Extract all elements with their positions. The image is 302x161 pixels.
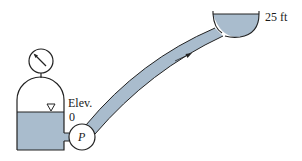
- pressurized-tank: [17, 77, 64, 150]
- tank-water: [17, 112, 64, 150]
- reservoir-elevation-label: 25 ft: [265, 11, 287, 23]
- discharge-pipe: [86, 28, 223, 134]
- pressure-gauge-icon: [29, 49, 53, 78]
- free-surface-triangle-icon: [47, 104, 55, 111]
- pump-system-diagram: [0, 0, 302, 161]
- pump-label: P: [78, 131, 85, 143]
- elevation-label: Elev.: [68, 97, 92, 109]
- suction-pipe: [64, 133, 69, 141]
- elevation-value: 0: [69, 111, 75, 123]
